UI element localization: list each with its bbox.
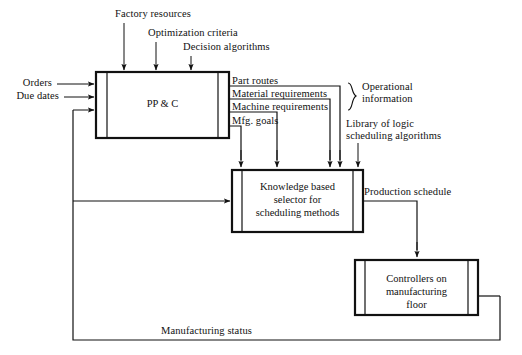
production-schedule-path bbox=[363, 201, 417, 257]
label-orders: Orders bbox=[0, 77, 52, 89]
label-library-of-logic: Library of logic scheduling algorithms bbox=[346, 118, 441, 143]
label-optimization-criteria: Optimization criteria bbox=[148, 27, 238, 39]
label-material-requirements: Material requirements bbox=[232, 88, 327, 100]
label-operational-information: Operational information bbox=[362, 81, 413, 106]
label-production-schedule: Production schedule bbox=[364, 186, 451, 198]
ppc-box-label: PP & C bbox=[107, 97, 218, 110]
controllers-box-label: Controllers on manufacturing floor bbox=[365, 272, 468, 311]
label-mfg-goals: Mfg. goals bbox=[232, 115, 279, 127]
diagram-canvas: Factory resources Optimization criteria … bbox=[0, 0, 522, 355]
label-manufacturing-status: Manufacturing status bbox=[161, 325, 252, 337]
operational-information-brace bbox=[348, 83, 356, 110]
flow-mfg-goals bbox=[229, 126, 241, 167]
label-decision-algorithms: Decision algorithms bbox=[183, 41, 270, 53]
knowledge-selector-box-label: Knowledge based selector for scheduling … bbox=[242, 180, 353, 219]
label-part-routes: Part routes bbox=[232, 75, 278, 87]
label-due-dates: Due dates bbox=[0, 90, 59, 102]
label-machine-requirements: Machine requirements bbox=[232, 101, 328, 113]
label-factory-resources: Factory resources bbox=[115, 8, 191, 20]
